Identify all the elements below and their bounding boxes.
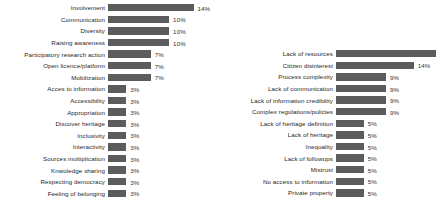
category-label: Feeling of belonging bbox=[0, 190, 108, 197]
bar bbox=[108, 132, 126, 139]
bar-track: 5% bbox=[336, 120, 436, 127]
category-label: Complex regulations/policies bbox=[218, 108, 336, 115]
category-label: Acces to information bbox=[0, 85, 108, 92]
value-label: 3% bbox=[130, 132, 139, 139]
bar-row: Process complexity9% bbox=[218, 71, 436, 83]
bar bbox=[336, 62, 414, 69]
bar bbox=[108, 143, 126, 150]
bar-row: Inequality5% bbox=[218, 141, 436, 153]
bar bbox=[336, 143, 364, 150]
bar-track: 3% bbox=[108, 120, 218, 127]
category-label: Lack of communication bbox=[218, 85, 336, 92]
value-label: 7% bbox=[155, 74, 164, 81]
bar bbox=[108, 62, 151, 69]
bar-row: Lack of heritage definition5% bbox=[218, 118, 436, 130]
bar bbox=[336, 166, 364, 173]
category-label: Involvement bbox=[0, 4, 108, 11]
bar-row: Mistrust5% bbox=[218, 164, 436, 176]
category-label: No access to information bbox=[218, 178, 336, 185]
bar bbox=[336, 50, 436, 57]
bar bbox=[108, 16, 169, 23]
bar-row: Lack of followups5% bbox=[218, 152, 436, 164]
bar-track: 3% bbox=[108, 155, 218, 162]
value-label: 3% bbox=[130, 97, 139, 104]
value-label: 10% bbox=[173, 27, 186, 34]
bar-row: Respecting democracy3% bbox=[0, 176, 218, 188]
bar-track: 14% bbox=[108, 4, 218, 11]
bar-chart-benefits: Involvement14%Communication10%Diversity1… bbox=[0, 0, 218, 207]
value-label: 3% bbox=[130, 167, 139, 174]
bar-track: 5% bbox=[336, 189, 436, 196]
value-label: 14% bbox=[198, 4, 211, 11]
bar bbox=[108, 50, 151, 57]
bar-track: 9% bbox=[336, 96, 436, 103]
bar-row: Private property5% bbox=[218, 187, 436, 199]
category-label: Lack of heritage definition bbox=[218, 120, 336, 127]
category-label: Inequality bbox=[218, 143, 336, 150]
bar-track: 5% bbox=[336, 154, 436, 161]
bar bbox=[108, 120, 126, 127]
bar-track: 9% bbox=[336, 108, 436, 115]
bar-row: Interactivity3% bbox=[0, 141, 218, 153]
value-label: 10% bbox=[173, 16, 186, 23]
value-label: 14% bbox=[418, 62, 431, 69]
bar-row: Sources multiplication3% bbox=[0, 153, 218, 165]
category-label: Open licence/platform bbox=[0, 62, 108, 69]
bar bbox=[336, 154, 364, 161]
bar bbox=[108, 108, 126, 115]
bar bbox=[108, 74, 151, 81]
bar-track: 3% bbox=[108, 108, 218, 115]
bar-row: Participatory research action7% bbox=[0, 48, 218, 60]
bar-row: Discover heritage3% bbox=[0, 118, 218, 130]
bar-track: 18% bbox=[336, 50, 436, 57]
value-label: 7% bbox=[155, 62, 164, 69]
value-label: 9% bbox=[390, 108, 399, 115]
bar-row: Complex regulations/policies9% bbox=[218, 106, 436, 118]
category-label: Diversity bbox=[0, 27, 108, 34]
bar bbox=[108, 85, 126, 92]
category-label: Participatory research action bbox=[0, 51, 108, 58]
bar bbox=[108, 166, 126, 173]
value-label: 5% bbox=[368, 120, 377, 127]
bar-row: Involvement14% bbox=[0, 2, 218, 14]
bar bbox=[336, 178, 364, 185]
bar bbox=[108, 155, 126, 162]
bar bbox=[108, 27, 169, 34]
category-label: Private property bbox=[218, 189, 336, 196]
bar-row: Communication10% bbox=[0, 14, 218, 26]
bar bbox=[336, 189, 364, 196]
bar-track: 3% bbox=[108, 190, 218, 197]
category-label: Inclusivity bbox=[0, 132, 108, 139]
bar-track: 3% bbox=[108, 143, 218, 150]
category-label: Mistrust bbox=[218, 166, 336, 173]
category-label: Accessibility bbox=[0, 97, 108, 104]
bar-track: 3% bbox=[108, 166, 218, 173]
value-label: 5% bbox=[368, 166, 377, 173]
category-label: Mobilization bbox=[0, 74, 108, 81]
bar-row: Lack of communication9% bbox=[218, 83, 436, 95]
bar-row: Lack of information credibility9% bbox=[218, 94, 436, 106]
bar-track: 9% bbox=[336, 73, 436, 80]
bar bbox=[108, 39, 169, 46]
value-label: 5% bbox=[368, 143, 377, 150]
value-label: 3% bbox=[130, 109, 139, 116]
category-label: Communication bbox=[0, 16, 108, 23]
category-label: Lack of followups bbox=[218, 155, 336, 162]
category-label: Respecting democracy bbox=[0, 178, 108, 185]
value-label: 3% bbox=[130, 190, 139, 197]
bar-track: 10% bbox=[108, 27, 218, 34]
bar-row: Knwoledge sharing3% bbox=[0, 164, 218, 176]
bar-track: 5% bbox=[336, 131, 436, 138]
bar bbox=[336, 96, 386, 103]
value-label: 9% bbox=[390, 97, 399, 104]
bar-row: Lack of resources18% bbox=[218, 48, 436, 60]
category-label: Raising awareness bbox=[0, 39, 108, 46]
bar-row: Accessibility3% bbox=[0, 95, 218, 107]
bar-row: Citizen disinterest14% bbox=[218, 60, 436, 72]
bar bbox=[336, 131, 364, 138]
bar-row: Mobilization7% bbox=[0, 72, 218, 84]
value-label: 5% bbox=[368, 178, 377, 185]
bar bbox=[108, 178, 126, 185]
figure-two-bar-charts: Involvement14%Communication10%Diversity1… bbox=[0, 0, 436, 207]
value-label: 5% bbox=[368, 189, 377, 196]
